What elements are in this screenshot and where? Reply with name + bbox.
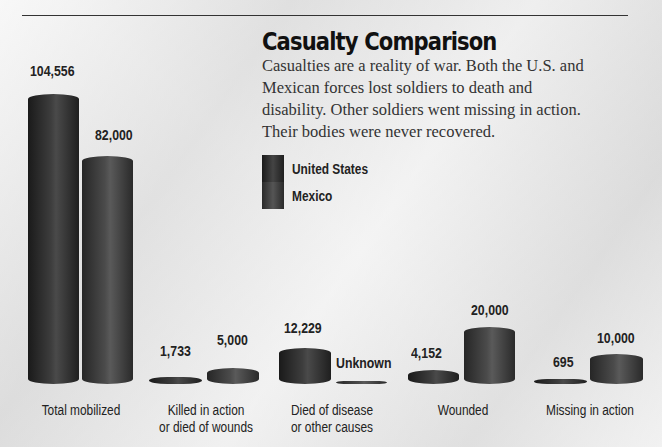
- top-rule: [22, 15, 628, 16]
- category-line: or died of wounds: [151, 419, 262, 436]
- value-label: 82,000: [95, 127, 133, 143]
- bar-mx-total-mobilized: [82, 156, 133, 384]
- category-line: Missing in action: [535, 402, 646, 419]
- category-label-total-mobilized: Total mobilized: [26, 402, 137, 419]
- chart-title: Casualty Comparison: [262, 28, 497, 56]
- category-label-wounded: Wounded: [408, 402, 519, 419]
- bar-mx-wounded: [464, 327, 515, 384]
- bar-us-disease: [279, 348, 331, 384]
- value-label: 10,000: [597, 330, 635, 346]
- value-label: 12,229: [284, 320, 322, 336]
- category-label-missing: Missing in action: [535, 402, 646, 419]
- category-line: Wounded: [408, 402, 519, 419]
- legend-item-mexico: Mexico: [262, 182, 339, 209]
- category-line: Died of disease: [277, 402, 388, 419]
- value-label: Unknown: [336, 355, 391, 371]
- bar-us-wounded: [408, 370, 459, 384]
- category-label-killed: Killed in action or died of wounds: [151, 402, 262, 436]
- legend-item-united-states: United States: [262, 155, 381, 182]
- legend-label: Mexico: [292, 188, 332, 204]
- legend-label: United States: [292, 161, 368, 177]
- bar-us-total-mobilized: [28, 94, 79, 384]
- value-label: 695: [553, 354, 574, 370]
- bar-us-killed: [149, 377, 202, 384]
- category-line: or other causes: [277, 419, 388, 436]
- category-line: Total mobilized: [26, 402, 137, 419]
- legend-swatch-mexico: [262, 182, 284, 209]
- bar-us-missing: [534, 379, 587, 384]
- legend-swatch-united-states: [262, 155, 284, 182]
- value-label: 20,000: [471, 302, 509, 318]
- value-label: 1,733: [160, 343, 191, 359]
- intro-text: Casualties are a reality of war. Both th…: [262, 55, 592, 143]
- value-label: 4,152: [411, 345, 442, 361]
- category-line: Killed in action: [151, 402, 262, 419]
- value-label: 5,000: [217, 332, 248, 348]
- bar-mx-killed: [207, 368, 259, 384]
- bar-mx-missing: [590, 354, 643, 384]
- category-label-disease: Died of disease or other causes: [277, 402, 388, 436]
- bar-mx-disease: [336, 381, 387, 384]
- value-label: 104,556: [30, 63, 75, 79]
